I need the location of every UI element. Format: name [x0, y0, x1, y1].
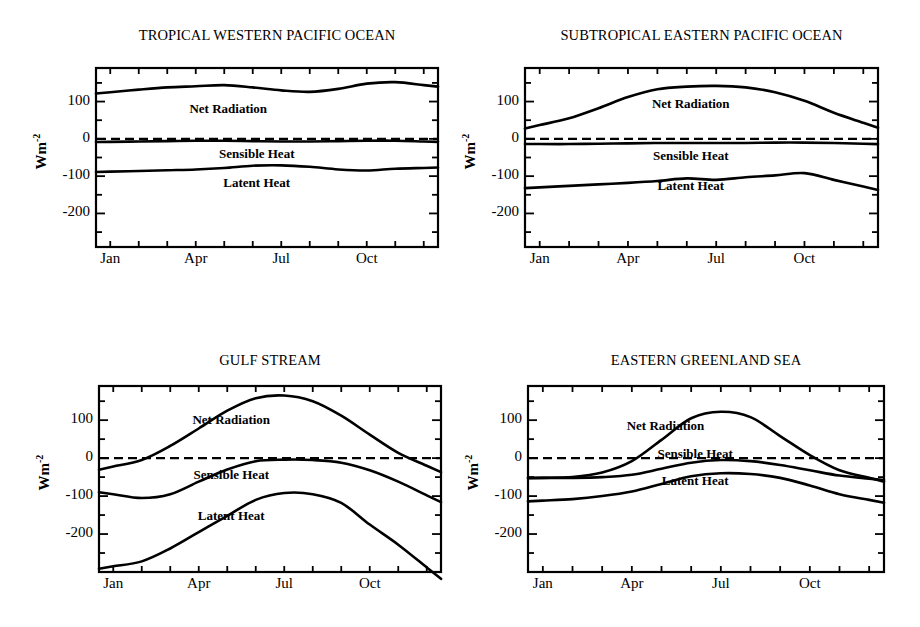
chart-panel-3: EASTERN GREENLAND SEAWm-21000-100-200Jan… — [0, 0, 920, 627]
x-tick-label: Oct — [780, 575, 840, 592]
series-label: Latent Heat — [647, 473, 743, 489]
series-label: Net Radiation — [618, 418, 714, 434]
y-axis-label-exponent: -2 — [463, 455, 474, 463]
x-tick-label: Apr — [602, 575, 662, 592]
y-tick-label: 100 — [476, 410, 522, 427]
x-tick-label: Jul — [691, 575, 751, 592]
energy-balance-figure: TROPICAL WESTERN PACIFIC OCEANWm-21000-1… — [0, 0, 920, 627]
y-tick-label: -100 — [476, 486, 522, 503]
panel-title: EASTERN GREENLAND SEA — [468, 352, 920, 369]
y-tick-label: 0 — [476, 448, 522, 465]
plot-area — [0, 0, 920, 627]
series-label: Sensible Heat — [647, 446, 743, 462]
y-tick-label: -200 — [476, 524, 522, 541]
x-tick-label: Jan — [513, 575, 573, 592]
